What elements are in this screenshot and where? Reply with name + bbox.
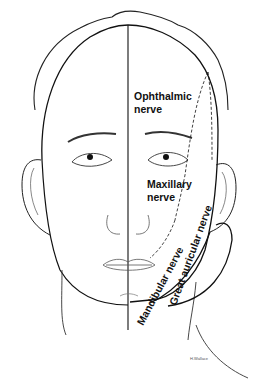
face-left-outline — [42, 160, 128, 305]
neck-sternocleidomastoid — [196, 325, 248, 378]
artist-signature: H.Wallace — [190, 356, 209, 361]
right-eyebrow — [145, 132, 192, 138]
chin-crease — [120, 294, 138, 296]
left-eyebrow — [68, 133, 116, 142]
left-ear — [22, 160, 50, 235]
right-eye — [148, 153, 188, 167]
left-pupil — [87, 154, 93, 160]
ophthalmic-label-line1: Ophthalmic — [134, 90, 192, 102]
left-ear-inner — [31, 168, 38, 215]
lips — [103, 259, 155, 270]
neck-left — [62, 270, 66, 335]
face-nerve-diagram: Ophthalmic nerve Maxillary nerve Mandibu… — [0, 0, 253, 383]
right-pupil — [163, 154, 169, 160]
neck-right — [188, 282, 196, 340]
right-ear-inner — [220, 172, 226, 214]
maxillary-label-line1: Maxillary — [147, 178, 192, 190]
ophthalmic-label-line2: nerve — [134, 103, 162, 115]
maxillary-label-line2: nerve — [147, 191, 175, 203]
